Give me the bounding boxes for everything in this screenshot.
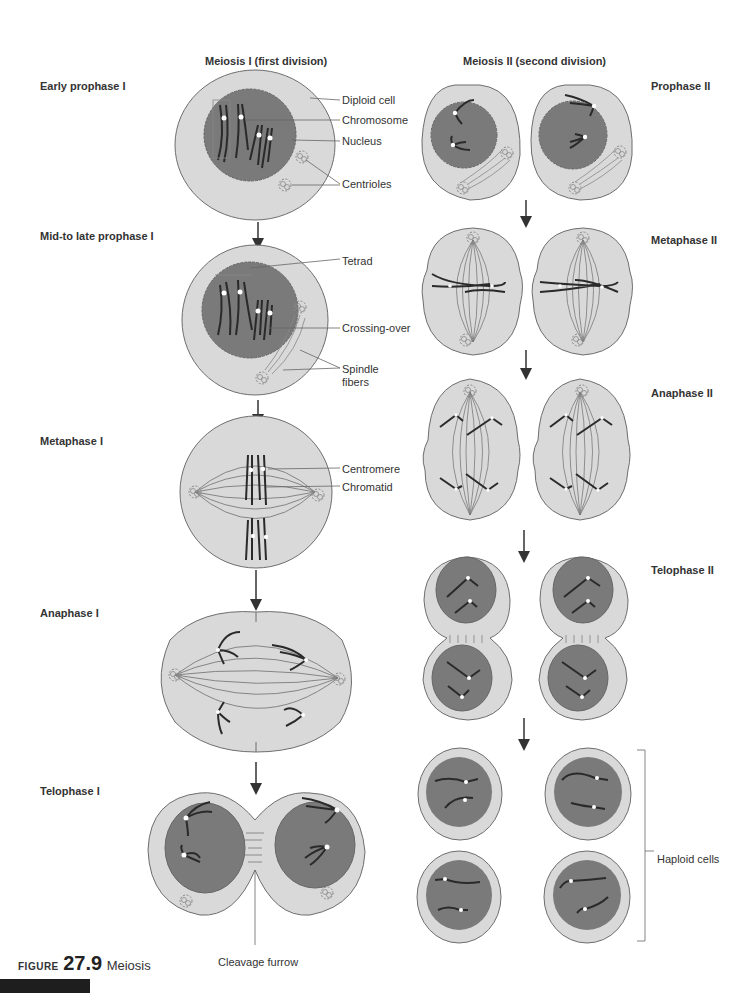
metaphase-1-cell	[180, 416, 340, 568]
prophase-2-cells	[422, 85, 632, 200]
early-prophase-1-cell	[175, 70, 340, 220]
meiosis-illustration	[0, 0, 749, 993]
figure-caption: FIGURE 27.9 Meiosis	[18, 952, 151, 975]
haploid-cells	[417, 748, 654, 943]
mid-late-prophase-1-cell	[182, 245, 340, 395]
figure-title: Meiosis	[107, 958, 151, 973]
telophase-1-cell	[148, 793, 365, 945]
figure-label: FIGURE	[18, 961, 59, 972]
page-footer-bar	[0, 979, 90, 993]
metaphase-2-cells	[422, 228, 632, 355]
figure-number: 27.9	[63, 952, 102, 974]
anaphase-2-cells	[423, 379, 630, 520]
anaphase-1-cell	[161, 612, 351, 752]
telophase-2-cells	[423, 557, 628, 720]
haploid-bracket	[637, 750, 645, 941]
